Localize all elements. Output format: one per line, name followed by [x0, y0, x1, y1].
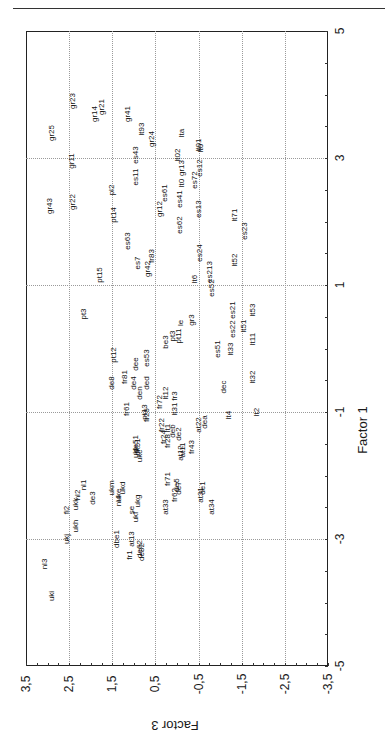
data-point-label: lt51 — [240, 320, 248, 333]
minor-tick — [209, 663, 210, 666]
grid-line-vertical — [285, 31, 286, 666]
data-point-label: dbe1 — [113, 530, 121, 548]
data-point-label: gr3 — [188, 314, 196, 326]
factor3-tick-label: 0,5 — [148, 676, 162, 693]
minor-tick — [325, 666, 328, 667]
minor-tick — [166, 663, 167, 666]
data-point-label: de3 — [89, 491, 97, 504]
factor1-axis-title: Factor 1 — [355, 406, 370, 454]
data-point-label: es21 — [229, 302, 237, 319]
data-point-label: lt0 — [197, 144, 205, 152]
minor-tick — [274, 663, 275, 666]
minor-tick — [325, 507, 328, 508]
data-point-label: gr41 — [124, 106, 132, 122]
minor-tick — [285, 663, 286, 666]
minor-tick — [325, 285, 328, 286]
data-point-label: lt4 — [225, 411, 233, 419]
data-point-label: dee — [132, 358, 140, 371]
data-point-label: lt71 — [231, 209, 239, 222]
minor-tick — [48, 663, 49, 666]
minor-tick — [112, 663, 113, 666]
data-point-label: pt14 — [110, 207, 118, 223]
data-point-label: lt32 — [249, 371, 257, 384]
data-point-label: at11 — [179, 443, 187, 458]
data-point-label: fi2 — [63, 506, 71, 514]
data-point-label: nl4 — [115, 496, 123, 507]
minor-tick — [80, 663, 81, 666]
factor3-tick-label: -0,5 — [192, 674, 206, 695]
minor-tick — [102, 663, 103, 666]
minor-tick — [69, 663, 70, 666]
data-point-label: lt53 — [249, 304, 257, 317]
page-header-rule — [13, 8, 385, 9]
data-point-label: ukk — [72, 498, 80, 510]
data-point-label: pt11 — [175, 328, 183, 343]
data-point-label: es52 — [208, 279, 216, 296]
data-point-label: pt15 — [96, 268, 104, 284]
minor-tick — [325, 380, 328, 381]
data-point-label: gr11 — [68, 153, 76, 168]
data-point-label: ukc — [136, 450, 144, 462]
minor-tick — [325, 476, 328, 477]
data-point-label: le — [177, 320, 185, 326]
data-point-label: gr23 — [69, 93, 77, 109]
minor-tick — [325, 95, 328, 96]
factor3-tick-label: 2,5 — [62, 676, 76, 693]
data-point-label: dec — [220, 380, 228, 393]
data-point-label: gr25 — [48, 125, 56, 141]
data-point-label: es22 — [229, 321, 237, 338]
data-point-label: es61 — [161, 184, 169, 201]
minor-tick — [325, 126, 328, 127]
data-point-label: es72 — [191, 172, 199, 189]
plot-frame — [26, 31, 328, 666]
minor-tick — [26, 663, 27, 666]
data-point-label: de1 — [199, 482, 207, 495]
minor-tick — [242, 663, 243, 666]
factor3-axis-title: Factor 3 — [151, 718, 199, 733]
data-point-label: fr43 — [188, 440, 196, 454]
data-point-label: de8 — [108, 377, 116, 390]
data-point-label: pt12 — [110, 347, 118, 363]
grid-line-vertical — [69, 31, 70, 666]
data-point-label: es62 — [176, 216, 184, 233]
factor1-tick-label: -3 — [333, 534, 347, 545]
factor3-tick-label: -2,5 — [278, 674, 292, 695]
minor-tick — [58, 663, 59, 666]
data-point-label: gr13 — [178, 160, 186, 176]
minor-tick — [325, 634, 328, 635]
factor3-tick-label: 3,5 — [19, 676, 33, 693]
data-point-label: fr28 — [164, 434, 172, 448]
data-point-label: gr43 — [46, 198, 54, 214]
data-point-label: fr1 — [126, 550, 134, 559]
minor-tick — [325, 412, 328, 413]
factor3-tick-label: -3,5 — [321, 674, 335, 695]
data-point-label: lt0 — [178, 179, 186, 187]
minor-tick — [188, 663, 189, 666]
data-point-label: fr62 — [171, 488, 179, 502]
minor-tick — [325, 571, 328, 572]
factor1-tick-label: 5 — [333, 28, 347, 35]
data-point-label: es51 — [214, 340, 222, 357]
data-point-label: lt33 — [227, 342, 235, 355]
grid-line-vertical — [199, 31, 200, 666]
factor3-tick-label: -1,5 — [235, 674, 249, 695]
factor3-tick-label: 1,5 — [105, 676, 119, 693]
minor-tick — [220, 663, 221, 666]
grid-line-horizontal — [26, 285, 328, 286]
grid-line-vertical — [155, 31, 156, 666]
minor-tick — [231, 663, 232, 666]
minor-tick — [134, 663, 135, 666]
minor-tick — [325, 63, 328, 64]
minor-tick — [325, 253, 328, 254]
minor-tick — [325, 317, 328, 318]
data-point-label: nl3 — [41, 559, 49, 570]
data-point-label: es23 — [241, 222, 249, 239]
data-point-label: es43 — [132, 146, 140, 163]
minor-tick — [325, 190, 328, 191]
data-point-label: fr3 — [171, 391, 179, 400]
data-point-label: es53 — [143, 349, 151, 366]
minor-tick — [37, 663, 38, 666]
minor-tick — [325, 539, 328, 540]
minor-tick — [325, 603, 328, 604]
minor-tick — [325, 31, 328, 32]
